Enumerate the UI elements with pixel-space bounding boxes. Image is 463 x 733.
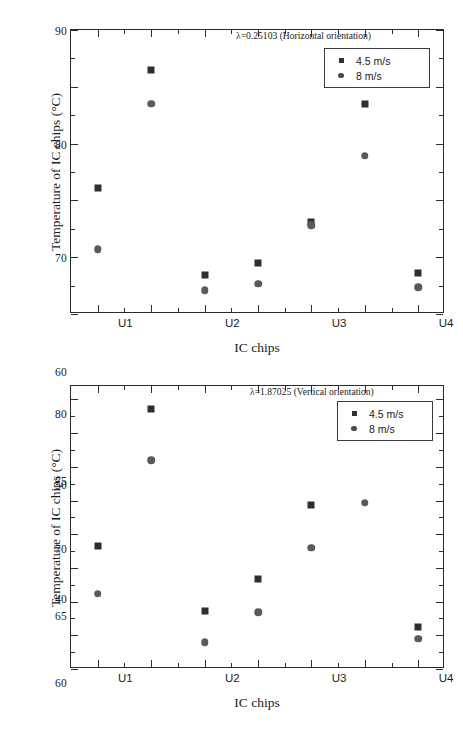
y-tick-major-right [436, 200, 443, 201]
x-tick-major: U3 [205, 660, 206, 667]
x-tick-major: U7 [418, 305, 419, 312]
data-point [361, 152, 369, 160]
y-tick-major: 70 [71, 144, 78, 145]
x-tick-minor [338, 663, 339, 667]
y-tick-minor-right [439, 618, 443, 619]
x-tick-major: U6 [365, 305, 366, 312]
x-tick-major-top [151, 386, 152, 393]
data-point [308, 544, 316, 552]
y-tick-minor-right [439, 115, 443, 116]
y-tick-major: 80 [71, 87, 78, 88]
data-point [361, 499, 369, 507]
y-tick-minor [71, 172, 75, 173]
data-point [415, 284, 423, 292]
y-tick-major: 65 [71, 501, 78, 502]
legend-vertical: 4.5 m/s 8 m/s [337, 401, 433, 441]
y-tick-minor [71, 450, 75, 451]
y-tick-major-right [436, 30, 443, 31]
y-tick-major: 80 [71, 399, 78, 400]
y-tick-major: 45 [71, 635, 78, 636]
data-point [255, 260, 262, 267]
y-tick-major: 70 [71, 467, 78, 468]
panel-annotation-horizontal: λ=0.25103 (Horizontal orientation) [236, 30, 371, 41]
data-point [148, 405, 155, 412]
y-tick-major-right [436, 257, 443, 258]
y-tick-minor [71, 517, 75, 518]
x-tick-major-top [151, 30, 152, 37]
x-tick-minor [285, 308, 286, 312]
y-tick-major-right [436, 433, 443, 434]
y-tick-minor-right [439, 652, 443, 653]
chart-panel-vertical: 404550556065707580U1U2U3U4U5U6U7 λ=1.870… [0, 366, 463, 733]
x-tick-major: U4 [258, 305, 259, 312]
x-tick-major: U5 [311, 305, 312, 312]
y-tick-minor-right [439, 450, 443, 451]
data-point [94, 543, 101, 550]
x-tick-label: U4 [439, 317, 454, 329]
y-tick-minor [71, 416, 75, 417]
x-tick-minor-top [231, 386, 232, 390]
y-tick-label: 90 [55, 25, 67, 37]
legend-label-speed-2: 8 m/s [351, 70, 382, 82]
x-tick-minor-top [231, 30, 232, 34]
y-tick-major-right [436, 144, 443, 145]
x-tick-major: U1 [98, 305, 99, 312]
y-tick-major-right [436, 602, 443, 603]
x-tick-minor [392, 308, 393, 312]
data-point [94, 245, 102, 253]
y-tick-minor [71, 484, 75, 485]
x-tick-minor [231, 308, 232, 312]
y-tick-minor-right [439, 172, 443, 173]
x-tick-minor-top [392, 30, 393, 34]
x-tick-major: U5 [311, 660, 312, 667]
y-tick-minor [71, 551, 75, 552]
x-tick-major-top [205, 386, 206, 393]
x-tick-minor [338, 308, 339, 312]
x-tick-label: U3 [332, 317, 347, 329]
data-point [147, 456, 155, 464]
y-tick-minor-right [439, 58, 443, 59]
legend-item-speed-2: 8 m/s [331, 68, 420, 83]
x-tick-major-top [418, 386, 419, 393]
x-tick-minor [285, 663, 286, 667]
y-tick-major: 50 [71, 257, 78, 258]
legend-horizontal: 4.5 m/s 8 m/s [324, 48, 430, 88]
data-point [201, 272, 208, 279]
data-point [148, 67, 155, 74]
legend-label-speed-2: 8 m/s [364, 423, 395, 435]
circle-marker-icon [331, 73, 351, 79]
data-point [147, 100, 155, 108]
x-tick-label: U3 [332, 672, 347, 684]
y-tick-major: 75 [71, 433, 78, 434]
y-tick-minor [71, 229, 75, 230]
y-tick-major: 90 [71, 30, 78, 31]
y-tick-major: 50 [71, 602, 78, 603]
data-point [415, 635, 423, 643]
y-axis-title-vertical: Temperature of IC chips (°C) [48, 398, 64, 658]
x-tick-minor-top [178, 30, 179, 34]
y-tick-minor [71, 585, 75, 586]
y-tick-major-right [436, 467, 443, 468]
x-tick-major: U4 [258, 660, 259, 667]
x-tick-major: U7 [418, 660, 419, 667]
data-point [201, 638, 209, 646]
x-tick-major: U3 [205, 305, 206, 312]
legend-item-speed-2: 8 m/s [344, 421, 423, 436]
y-tick-major-right [436, 87, 443, 88]
y-tick-major-right [436, 534, 443, 535]
y-tick-minor-right [439, 551, 443, 552]
data-point [201, 286, 209, 294]
x-tick-major-top [98, 30, 99, 37]
x-tick-major: U1 [98, 660, 99, 667]
x-tick-label: U2 [225, 672, 240, 684]
legend-item-speed-1: 4.5 m/s [344, 406, 423, 421]
y-tick-major: 40 [71, 669, 78, 670]
y-tick-minor [71, 58, 75, 59]
square-marker-icon [331, 58, 351, 63]
x-tick-minor [231, 663, 232, 667]
y-tick-minor [71, 286, 75, 287]
x-tick-major: U2 [151, 305, 152, 312]
x-tick-major-top [205, 30, 206, 37]
y-tick-major-right [436, 399, 443, 400]
y-tick-major: 40 [71, 314, 78, 315]
